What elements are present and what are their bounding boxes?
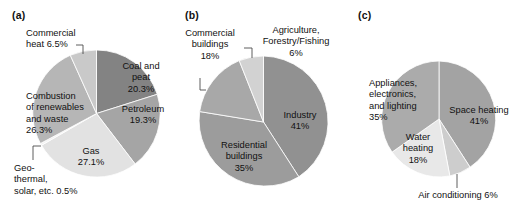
panel-c: (c) Space heating 41% Air conditioning 6… (344, 0, 520, 223)
label-coal-and-peat: Coal and peat 20.3% (113, 61, 169, 95)
label-appliances-electronics-lighting: Appliances, electronics, and lighting 35… (369, 78, 441, 124)
panel-b: (b) Industry 41% Residential buildings 3… (172, 0, 344, 223)
leader-line-geothermal (33, 146, 41, 160)
label-combustion-renewables-waste: Combustion of renewables and waste 26.3% (26, 91, 100, 137)
label-commercial-heat: Commercial heat 6.5% (26, 28, 98, 51)
label-commercial-buildings: Commercial buildings 18% (175, 28, 245, 62)
leader-line-commercial-buildings (200, 78, 206, 90)
pie-chart-figure: (a) Coal and peat 20.3% Petroleum 19.3% … (0, 0, 520, 223)
label-agriculture-forestry-fishing: Agriculture, Forestry/Fishing 6% (248, 25, 344, 59)
label-residential-buildings: Residential buildings 35% (208, 140, 280, 174)
label-geothermal-solar: Geo- thermal, solar, etc. 0.5% (14, 163, 110, 197)
label-petroleum: Petroleum 19.3% (112, 104, 174, 127)
label-air-conditioning: Air conditioning 6% (396, 190, 520, 201)
label-space-heating: Space heating 41% (439, 105, 519, 128)
label-industry: Industry 41% (270, 110, 330, 133)
panel-a: (a) Coal and peat 20.3% Petroleum 19.3% … (0, 0, 172, 223)
label-water-heating: Water heating 18% (394, 132, 442, 166)
